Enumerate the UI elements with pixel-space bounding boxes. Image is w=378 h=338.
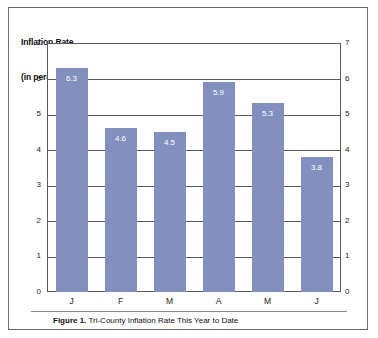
bar-j-5: 3.8 xyxy=(301,157,333,292)
caption-label: Figure 1. xyxy=(53,316,86,325)
y-axis-tick-right-0: 0 xyxy=(345,288,367,296)
bar-value-label: 5.3 xyxy=(252,110,284,118)
figure-frame: Inflation Rate (in percent) 6.34.64.55.9… xyxy=(8,7,368,330)
figure-caption: Figure 1. Tri-County Inflation Rate This… xyxy=(53,316,238,326)
y-axis-tick-left-3: 3 xyxy=(19,181,41,189)
caption-divider xyxy=(31,311,347,312)
bar-value-label: 3.8 xyxy=(301,164,333,172)
bar-value-label: 6.3 xyxy=(56,75,88,83)
bar-value-label: 4.6 xyxy=(105,135,137,143)
y-axis-tick-left-0: 0 xyxy=(19,288,41,296)
bar-value-label: 4.5 xyxy=(154,139,186,147)
y-axis-tick-right-4: 4 xyxy=(345,146,367,154)
x-axis-label-4: M xyxy=(243,296,292,306)
y-axis-tick-right-3: 3 xyxy=(345,181,367,189)
bar-f-1: 4.6 xyxy=(105,128,137,292)
y-axis-tick-left-5: 5 xyxy=(19,110,41,118)
y-axis-tick-right-5: 5 xyxy=(345,110,367,118)
y-axis-tick-right-2: 2 xyxy=(345,217,367,225)
y-axis-tick-left-1: 1 xyxy=(19,252,41,260)
bar-m-4: 5.3 xyxy=(252,103,284,292)
category-labels: JFMAMJ xyxy=(47,296,341,310)
x-axis-label-0: J xyxy=(47,296,96,306)
y-axis-tick-right-1: 1 xyxy=(345,252,367,260)
caption-text: Tri-County Inflation Rate This Year to D… xyxy=(86,316,238,325)
x-axis-label-1: F xyxy=(96,296,145,306)
bars-layer: 6.34.64.55.95.33.8 xyxy=(47,43,341,292)
y-axis-tick-left-6: 6 xyxy=(19,75,41,83)
bar-value-label: 5.9 xyxy=(203,89,235,97)
x-axis-label-2: M xyxy=(145,296,194,306)
x-axis-label-3: A xyxy=(194,296,243,306)
y-axis-tick-left-2: 2 xyxy=(19,217,41,225)
y-axis-tick-left-7: 7 xyxy=(19,39,41,47)
chart-plot-wrapper: 6.34.64.55.95.33.8 JFMAMJ 77665544332211… xyxy=(9,8,369,331)
x-axis-label-5: J xyxy=(292,296,341,306)
y-axis-tick-left-4: 4 xyxy=(19,146,41,154)
bar-j-0: 6.3 xyxy=(56,68,88,292)
bar-a-3: 5.9 xyxy=(203,82,235,292)
bar-m-2: 4.5 xyxy=(154,132,186,292)
y-axis-tick-right-7: 7 xyxy=(345,39,367,47)
y-axis-tick-right-6: 6 xyxy=(345,75,367,83)
